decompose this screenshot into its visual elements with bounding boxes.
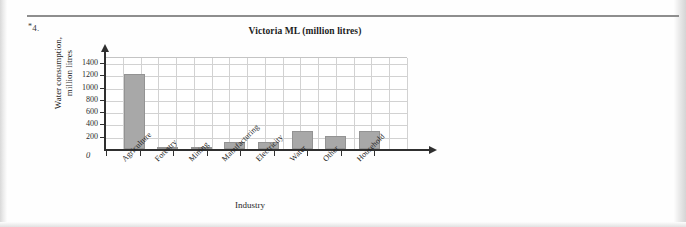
page-edge-left <box>0 0 7 227</box>
page-edge-right <box>674 0 686 227</box>
x-axis-tick <box>140 151 141 156</box>
x-axis-tick <box>374 151 375 156</box>
x-axis-tick <box>240 151 241 156</box>
scanned-page: *4. Victoria ML (million litres) Water c… <box>0 0 686 227</box>
y-axis-tick <box>100 124 105 125</box>
gridline-vertical <box>407 58 408 150</box>
gridline-vertical <box>318 58 319 150</box>
x-axis-title: Industry <box>190 200 310 210</box>
gridline-horizontal <box>105 64 407 65</box>
x-axis-tick <box>274 151 275 156</box>
gridline-horizontal <box>105 89 407 90</box>
chart-title: Victoria ML (million litres) <box>190 26 420 36</box>
x-axis-tick <box>307 151 308 156</box>
y-axis-tick <box>100 100 105 101</box>
gridline-horizontal <box>105 101 407 102</box>
gridline-vertical <box>354 58 355 150</box>
gridline-horizontal <box>105 113 407 114</box>
gridline-vertical <box>283 58 284 150</box>
y-axis-tick-label: 1200 <box>64 70 98 79</box>
page-edge-bottom <box>0 222 686 227</box>
gridline-vertical <box>229 58 230 150</box>
gridline-vertical <box>158 58 159 150</box>
question-number: *4. <box>28 22 39 33</box>
y-axis-arrow-icon <box>101 44 109 52</box>
question-number-label: 4. <box>32 23 39 33</box>
y-axis-tick-label: 1400 <box>64 58 98 67</box>
gridline-horizontal <box>105 76 407 77</box>
gridline-vertical <box>389 58 390 150</box>
y-axis-tick-label: 400 <box>64 119 98 128</box>
x-axis-tick <box>106 151 107 156</box>
y-axis-tick-label: 1000 <box>64 83 98 92</box>
y-axis-tick <box>100 75 105 76</box>
y-axis-tick <box>100 88 105 89</box>
bar-chart: Victoria ML (million litres) Water consu… <box>40 22 460 222</box>
y-axis-tick <box>100 112 105 113</box>
gridline-vertical <box>212 58 213 150</box>
x-axis-tick <box>207 151 208 156</box>
y-axis-tick <box>100 63 105 64</box>
gridline-vertical <box>194 58 195 150</box>
y-axis-zero-label: 0 <box>86 150 90 160</box>
x-axis-tick <box>341 151 342 156</box>
gridline-vertical <box>265 58 266 150</box>
x-axis-arrow-icon <box>429 146 437 154</box>
y-axis-tick-label: 600 <box>64 107 98 116</box>
y-axis-tick <box>100 137 105 138</box>
y-axis-title-line1: Water consumption, <box>53 37 63 109</box>
y-axis-tick-label: 800 <box>64 95 98 104</box>
y-axis-tick-label: 200 <box>64 132 98 141</box>
gridline-vertical <box>176 58 177 150</box>
x-axis-tick <box>173 151 174 156</box>
horizontal-rule <box>27 15 679 17</box>
